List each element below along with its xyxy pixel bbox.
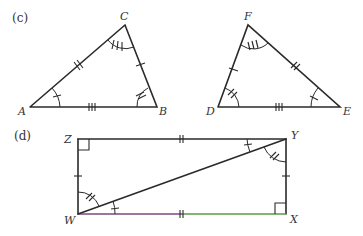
- angle-wyx-mark: [264, 147, 286, 162]
- angle-zyw-mark: [244, 139, 252, 152]
- vertex-f-label: F: [243, 10, 252, 23]
- part-c-label: (c): [12, 11, 28, 25]
- triangle-def-outline: [218, 25, 340, 107]
- geometry-figure: (c): [0, 0, 363, 236]
- part-d-label: (d): [14, 129, 31, 143]
- right-angle-x: [275, 203, 286, 214]
- angle-b-mark: [136, 88, 148, 107]
- angle-a-mark: [52, 88, 61, 107]
- vertex-c-label: C: [120, 10, 129, 23]
- right-angle-z: [78, 139, 89, 150]
- vertex-b-label: B: [158, 105, 167, 118]
- vertex-d-label: D: [205, 105, 215, 118]
- angle-zwy-mark: [78, 192, 99, 206]
- vertex-z-label: Z: [63, 133, 72, 146]
- triangle-abc: A B C: [17, 10, 167, 118]
- angle-f-mark: [241, 40, 268, 50]
- vertex-y-label: Y: [291, 129, 300, 142]
- triangle-def: D E F: [205, 10, 351, 118]
- tick-fe: [291, 62, 300, 70]
- tick-df: [229, 68, 238, 71]
- angle-e-mark: [310, 88, 318, 107]
- vertex-x-label: X: [289, 213, 299, 226]
- angle-d-mark: [225, 88, 239, 107]
- diagonal-wy: [78, 139, 286, 214]
- vertex-a-label: A: [17, 105, 26, 118]
- vertex-e-label: E: [342, 105, 351, 118]
- angle-ywx-mark: [111, 201, 119, 214]
- vertex-w-label: W: [64, 214, 77, 227]
- rectangle-wxyz: Z Y X W: [63, 129, 300, 227]
- angle-c-mark: [108, 40, 134, 51]
